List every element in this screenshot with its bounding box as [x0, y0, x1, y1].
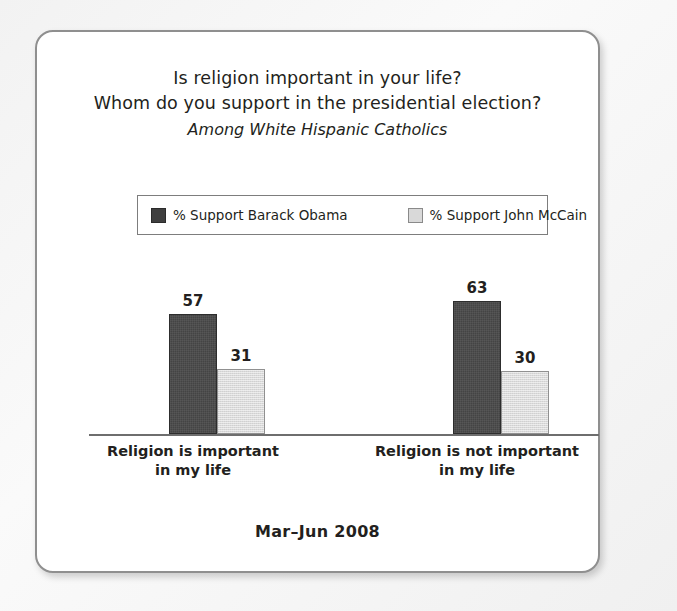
- chart-card: Is religion important in your life? Whom…: [35, 30, 600, 573]
- bar-mccain-not-important: [501, 371, 549, 434]
- category-label-line-1: Religion is not important: [358, 442, 596, 461]
- bar-value-mccain-not-important: 30: [501, 349, 549, 367]
- bar-group-bars: 63 30: [343, 32, 583, 434]
- bar-value-mccain-important: 31: [217, 347, 265, 365]
- bar-group-bars: 57 31: [59, 32, 299, 434]
- bar-value-obama-not-important: 63: [453, 279, 501, 297]
- axis-baseline: [89, 434, 599, 436]
- bar-value-obama-important: 57: [169, 292, 217, 310]
- category-label-line-2: in my life: [358, 461, 596, 480]
- bar-obama-important: [169, 314, 217, 434]
- category-label-religion-important: Religion is important in my life: [74, 442, 312, 480]
- plot-area: 57 31 Religion is important in my life 6…: [37, 32, 598, 571]
- bar-mccain-important: [217, 369, 265, 434]
- category-label-religion-not-important: Religion is not important in my life: [358, 442, 596, 480]
- category-label-line-2: in my life: [74, 461, 312, 480]
- page-background: Is religion important in your life? Whom…: [0, 0, 677, 611]
- category-label-line-1: Religion is important: [74, 442, 312, 461]
- chart-date-range: Mar–Jun 2008: [37, 522, 598, 541]
- bar-obama-not-important: [453, 301, 501, 434]
